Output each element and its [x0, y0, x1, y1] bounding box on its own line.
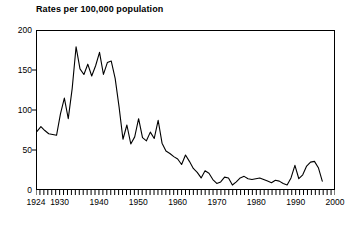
y-tick-label: 150 — [18, 65, 32, 75]
x-axis-ticks — [36, 190, 335, 196]
plot-area — [36, 30, 335, 190]
chart-title: Rates per 100,000 population — [36, 4, 163, 14]
x-tick-label: 1940 — [89, 197, 108, 207]
x-tick-label: 1980 — [247, 197, 266, 207]
y-tick-label: 100 — [18, 105, 32, 115]
x-axis-label-group: 192419301940195019601970198019902000 — [0, 197, 355, 211]
x-tick-label: 1960 — [168, 197, 187, 207]
x-tick-label: 2000 — [326, 197, 345, 207]
x-tick-label: 1950 — [129, 197, 148, 207]
series-line-0 — [37, 47, 322, 185]
chart-page: Rates per 100,000 population 05010015020… — [0, 0, 355, 226]
x-tick-label: 1930 — [50, 197, 69, 207]
y-tick-label: 200 — [18, 25, 32, 35]
y-axis-label-group: 050100150200 — [0, 30, 32, 190]
data-series-line — [37, 31, 334, 189]
x-tick-label: 1990 — [286, 197, 305, 207]
x-tick-label: 1970 — [208, 197, 227, 207]
x-tick-label: 1924 — [27, 197, 46, 207]
